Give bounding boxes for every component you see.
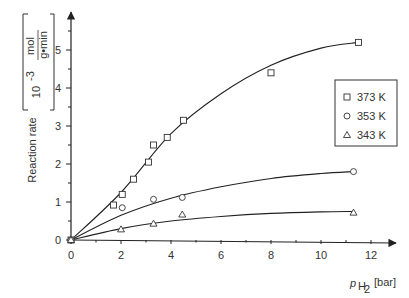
legend: 373 K353 K343 K — [335, 80, 397, 146]
y-axis-title: Reaction rate — [26, 117, 38, 182]
x-tick-label: 0 — [68, 249, 74, 261]
fit-curve — [71, 42, 359, 240]
x-tick-label: 4 — [168, 249, 174, 261]
square-marker — [111, 202, 117, 208]
y-tick-label: 1 — [55, 196, 61, 208]
y-tick-label: 5 — [55, 44, 61, 56]
square-marker — [131, 176, 137, 182]
y-tick-label: 3 — [55, 120, 61, 132]
x-axis — [71, 240, 396, 243]
square-marker — [151, 142, 157, 148]
square-marker — [119, 191, 125, 197]
circle-marker — [119, 205, 125, 211]
fit-curves — [71, 42, 359, 240]
x-axis-label: p H 2 [bar] — [349, 276, 396, 295]
triangle-marker — [179, 211, 186, 217]
y-ticks: 012345 — [55, 31, 71, 246]
x-tick-label: 6 — [218, 249, 224, 261]
y-axis-unit: 10 -3 mol g•min — [23, 14, 54, 110]
x-axis-subsubscript: 2 — [364, 283, 370, 295]
x-axis-title: p — [349, 277, 356, 289]
fit-curve — [71, 212, 354, 241]
chart: 024681012 012345 Reaction rate 10 -3 mol… — [0, 0, 409, 298]
circle-marker — [344, 113, 350, 119]
circle-marker — [351, 169, 357, 175]
square-marker — [164, 134, 170, 140]
square-marker — [268, 70, 274, 76]
legend-label: 343 K — [357, 129, 386, 141]
x-axis-unit: [bar] — [374, 276, 396, 288]
legend-label: 373 K — [357, 91, 386, 103]
x-tick-label: 8 — [268, 249, 274, 261]
triangle-marker — [350, 209, 357, 215]
legend-label: 353 K — [357, 110, 386, 122]
circle-marker — [151, 196, 157, 202]
circle-marker — [179, 194, 185, 200]
y-tick-label: 4 — [55, 82, 61, 94]
x-tick-label: 2 — [118, 249, 124, 261]
square-marker — [146, 159, 152, 165]
y-tick-label: 0 — [55, 234, 61, 246]
y-unit-exponent: -3 — [24, 71, 36, 81]
x-ticks: 024681012 — [68, 240, 377, 261]
square-marker — [356, 39, 362, 45]
square-marker — [181, 117, 187, 123]
y-unit-numerator: mol — [24, 37, 36, 55]
square-marker — [344, 94, 350, 100]
y-unit-denominator: g•min — [37, 31, 49, 59]
y-unit-factor: 10 — [30, 86, 42, 98]
x-tick-label: 10 — [315, 249, 327, 261]
x-tick-label: 12 — [365, 249, 377, 261]
y-tick-label: 2 — [55, 158, 61, 170]
y-axis-label: Reaction rate — [26, 117, 38, 182]
